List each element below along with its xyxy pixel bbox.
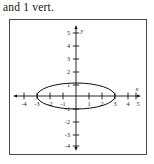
y-tick-label: -3 — [65, 131, 70, 138]
y-tick-label: -4 — [65, 142, 70, 149]
x-tick-label: -4 — [21, 100, 26, 107]
x-tick-label: -3 — [34, 100, 39, 107]
y-axis — [74, 25, 77, 151]
caption-text: and 1 vert. — [3, 1, 54, 13]
y-axis-tick-labels: 5 4 3 2 1 -1 -2 -3 -4 — [65, 29, 70, 149]
y-tick-label: -2 — [65, 118, 70, 125]
y-axis-label: y — [80, 27, 84, 34]
x-axis-tick-labels: -4 -3 -2 -1 1 2 3 4 5 — [21, 100, 139, 107]
y-tick-label: 1 — [67, 81, 70, 88]
x-tick-label: 3 — [113, 100, 116, 107]
y-tick-label: 3 — [67, 55, 70, 62]
y-tick-label: 4 — [67, 42, 70, 49]
x-tick-label: 5 — [136, 100, 139, 107]
x-axis-label: x — [135, 85, 139, 92]
figure-frame: -4 -3 -2 -1 1 2 3 4 5 5 4 3 2 1 -1 -2 -3… — [9, 19, 147, 155]
y-tick-label: 5 — [67, 29, 70, 36]
x-tick-label: 1 — [87, 100, 90, 107]
y-tick-label: 2 — [67, 68, 70, 75]
x-axis — [13, 94, 141, 97]
x-tick-label: 4 — [126, 100, 129, 107]
coordinate-plane: -4 -3 -2 -1 1 2 3 4 5 5 4 3 2 1 -1 -2 -3… — [10, 20, 146, 154]
